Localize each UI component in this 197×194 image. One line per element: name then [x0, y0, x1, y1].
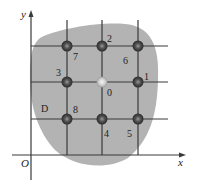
- node-6: [133, 41, 144, 52]
- node-3: [62, 77, 73, 88]
- node-0: [97, 77, 108, 88]
- node-label-2: 2: [107, 33, 112, 44]
- node-label-7: 7: [73, 51, 78, 62]
- node-4: [97, 114, 108, 125]
- node-label-3: 3: [56, 67, 61, 78]
- origin-label: O: [21, 157, 29, 169]
- stencil-diagram: y x O D 7 2 6 3 0 1 8 4: [0, 0, 197, 194]
- x-axis-label: x: [177, 156, 183, 168]
- node-8: [62, 114, 73, 125]
- node-label-4: 4: [104, 128, 109, 139]
- region-label: D: [41, 103, 48, 114]
- node-label-5: 5: [127, 128, 132, 139]
- node-label-8: 8: [73, 104, 78, 115]
- y-axis-arrow-icon: [29, 10, 34, 17]
- node-1: [133, 77, 144, 88]
- node-label-6: 6: [123, 55, 128, 66]
- y-axis-label: y: [20, 8, 26, 20]
- node-5: [133, 114, 144, 125]
- node-label-0: 0: [107, 87, 112, 98]
- node-2: [97, 41, 108, 52]
- node-7: [62, 41, 73, 52]
- node-label-1: 1: [144, 71, 149, 82]
